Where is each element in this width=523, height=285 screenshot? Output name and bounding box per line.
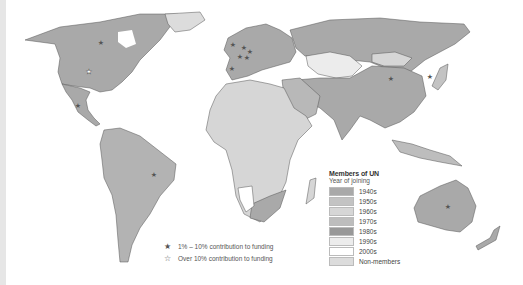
region-indonesia	[392, 140, 462, 166]
legend-swatch	[329, 217, 354, 226]
legend-item: 1990s	[329, 236, 429, 246]
funding-legend-item: ★ 1% – 10% contribution to funding	[162, 240, 273, 252]
legend-label: 1960s	[359, 208, 377, 215]
legend-label: 1950s	[359, 198, 377, 205]
membership-legend: Members of UN Year of joining 1940s 1950…	[329, 170, 429, 266]
legend-item: 1980s	[329, 226, 429, 236]
legend-swatch	[329, 227, 354, 236]
legend-title: Members of UN	[329, 170, 429, 177]
legend-label: Non-members	[359, 258, 400, 265]
region-north-america	[25, 14, 178, 92]
filled-star-icon: ★	[230, 41, 236, 49]
legend-swatch	[329, 257, 354, 266]
legend-label: 1940s	[359, 188, 377, 195]
legend-label: 2000s	[359, 248, 377, 255]
filled-star-icon: ★	[98, 39, 104, 47]
funding-legend-label: Over 10% contribution to funding	[178, 255, 273, 262]
region-japan	[432, 64, 448, 90]
filled-star-icon: ★	[237, 53, 243, 61]
filled-star-icon: ★	[388, 75, 394, 83]
legend-swatch	[329, 207, 354, 216]
legend-item: 1960s	[329, 206, 429, 216]
legend-item: 1970s	[329, 216, 429, 226]
outline-star-icon: ☆	[162, 254, 172, 263]
filled-star-icon: ★	[162, 242, 172, 251]
legend-label: 1980s	[359, 228, 377, 235]
region-greenland	[165, 12, 205, 32]
region-madagascar	[306, 178, 316, 204]
legend-subtitle: Year of joining	[329, 177, 429, 184]
filled-star-icon: ★	[151, 171, 157, 179]
filled-star-icon: ★	[229, 65, 235, 73]
region-new-zealand	[476, 226, 500, 250]
filled-star-icon: ★	[244, 54, 250, 62]
legend-label: 1970s	[359, 218, 377, 225]
legend-label: 1990s	[359, 238, 377, 245]
region-namibia	[238, 186, 254, 212]
legend-swatch	[329, 187, 354, 196]
legend-swatch	[329, 247, 354, 256]
funding-legend-label: 1% – 10% contribution to funding	[178, 243, 273, 250]
funding-legend-item: ☆ Over 10% contribution to funding	[162, 252, 273, 264]
legend-item: Non-members	[329, 256, 429, 266]
legend-swatch	[329, 237, 354, 246]
funding-legend: ★ 1% – 10% contribution to funding ☆ Ove…	[162, 240, 273, 264]
filled-star-icon: ★	[427, 73, 433, 81]
legend-item: 1940s	[329, 186, 429, 196]
filled-star-icon: ★	[445, 203, 451, 211]
outline-star-icon: ★	[86, 68, 92, 76]
legend-item: 1950s	[329, 196, 429, 206]
legend-item: 2000s	[329, 246, 429, 256]
legend-swatch	[329, 197, 354, 206]
filled-star-icon: ★	[75, 102, 81, 110]
